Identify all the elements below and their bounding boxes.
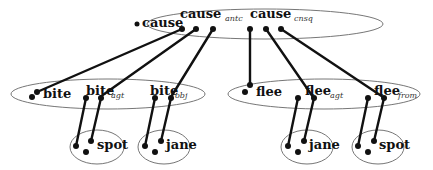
flee-agt-subscript: agt [330, 91, 344, 100]
edge-bite-obj-jane-b [161, 98, 171, 141]
jane1-dot-a [142, 143, 148, 149]
spot2-dot-c [365, 149, 371, 155]
bite-port [34, 89, 40, 95]
bite-obj-port-a [152, 95, 158, 101]
cause-port-5 [263, 26, 269, 32]
cause-port-6 [278, 26, 284, 32]
spot2-dot-b [371, 138, 377, 144]
cause-cnsq-label: cause [250, 6, 291, 21]
jane2-dot-b [301, 138, 307, 144]
cause-port-1 [179, 26, 185, 32]
cause-antc-label: cause [180, 6, 221, 21]
edge-bite-agt-spot-b [91, 98, 101, 141]
flee-from-subscript: from [397, 91, 418, 100]
spot2-label: spot [379, 137, 410, 152]
edge-flee-from-spot-b [374, 98, 384, 141]
edge-antc-bite-agt [100, 29, 196, 97]
flee-port [247, 82, 253, 88]
cause-port-2 [193, 26, 199, 32]
flee-from-port-b [381, 95, 387, 101]
spot1-dot-a [73, 143, 79, 149]
bite-agt-port-b [98, 95, 104, 101]
bite-label: bite [43, 86, 71, 101]
bite-agt-subscript: agt [111, 91, 125, 100]
jane2-dot-c [295, 149, 301, 155]
flee-from-port-a [365, 95, 371, 101]
jane1-label: jane [165, 137, 197, 152]
flee-agt-port-a [295, 95, 301, 101]
cause-antc-subscript: antc [225, 14, 243, 23]
flee-from-label: flee [374, 83, 400, 98]
bite-obj-subscript: obj [175, 91, 188, 100]
cause-dot [135, 22, 140, 27]
bite-agt-port-a [83, 95, 89, 101]
edge-bite-obj-jane-a [145, 98, 155, 146]
edge-flee-from-spot-a [358, 98, 368, 146]
semantic-network-diagram: cause cause antc cause cnsq bite bite ag… [0, 0, 433, 170]
edge-cnsq-flee-from [281, 29, 383, 97]
jane1-dot-c [152, 149, 158, 155]
spot1-dot-b [88, 138, 94, 144]
cause-cnsq-subscript: cnsq [294, 14, 313, 23]
bite-obj-port-b [168, 95, 174, 101]
flee-agt-label: flee [305, 83, 331, 98]
spot1-label: spot [97, 137, 128, 152]
flee-agt-port-b [311, 95, 317, 101]
flee-label: flee [256, 84, 282, 99]
edge-flee-agt-jane-b [304, 98, 314, 141]
cause-port-3 [210, 26, 216, 32]
cause-label: cause [142, 15, 183, 30]
bite-dot [29, 94, 35, 100]
jane1-dot-b [158, 138, 164, 144]
edge-flee-agt-jane-a [288, 98, 298, 146]
spot1-dot-c [83, 149, 89, 155]
jane2-label: jane [308, 137, 340, 152]
spot2-dot-a [355, 143, 361, 149]
cause-port-4 [247, 26, 253, 32]
flee-dot [242, 89, 248, 95]
edge-bite-agt-spot-a [76, 98, 86, 146]
jane2-dot-a [285, 143, 291, 149]
